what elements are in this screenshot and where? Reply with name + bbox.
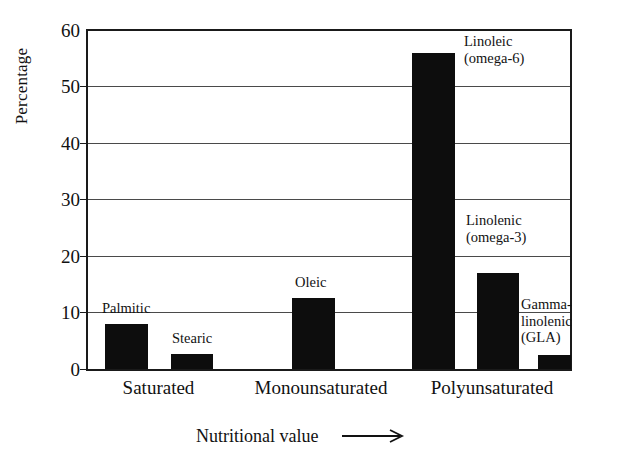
x-category-saturated: Saturated	[86, 377, 231, 399]
x-category-polyunsaturated: Polyunsaturated	[411, 377, 573, 399]
plot-frame-top	[86, 29, 572, 31]
bar-label-linoleic: Linoleic (omega-6)	[464, 33, 524, 66]
y-axis-title: Percentage	[12, 6, 38, 166]
gridline-20	[86, 256, 572, 257]
gridline-40	[86, 143, 572, 144]
arrow-right-icon	[340, 428, 410, 444]
bar-gamma-linolenic	[538, 355, 571, 369]
x-axis-line	[86, 369, 572, 371]
gridline-30	[86, 199, 572, 200]
bar-label-stearic: Stearic	[172, 330, 212, 347]
bar-label-gamma-linolenic: Gamma- linolenic (GLA)	[521, 296, 572, 346]
y-tick-30: 30	[46, 190, 80, 209]
bar-label-oleic: Oleic	[295, 274, 326, 291]
y-tick-60: 60	[46, 21, 80, 40]
y-tick-50: 50	[46, 77, 80, 96]
x-category-monounsaturated: Monounsaturated	[231, 377, 411, 399]
bar-linolenic	[477, 273, 519, 369]
bar-label-palmitic: Palmitic	[102, 300, 150, 317]
bar-label-linolenic: Linolenic (omega-3)	[466, 212, 526, 245]
bar-chart: Percentage 60 50 40 30 20 10 0 Palmitic …	[0, 0, 618, 466]
bar-oleic	[292, 298, 335, 369]
y-axis-tick-labels: 60 50 40 30 20 10 0	[42, 0, 80, 466]
x-axis-title: Nutritional value	[196, 425, 318, 447]
y-tick-40: 40	[46, 134, 80, 153]
y-tick-20: 20	[46, 247, 80, 266]
bar-linoleic	[412, 53, 455, 369]
y-tick-0: 0	[46, 360, 80, 379]
bar-stearic	[171, 354, 213, 369]
gridline-50	[86, 86, 572, 87]
bar-palmitic	[105, 324, 148, 369]
y-axis-line	[86, 29, 88, 370]
y-tick-10: 10	[46, 303, 80, 322]
